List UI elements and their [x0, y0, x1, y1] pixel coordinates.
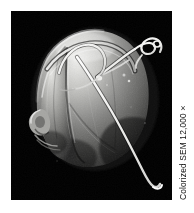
sem-micrograph-figure: Colorized SEM 12,000× [0, 0, 194, 213]
film-grain [11, 11, 172, 200]
magnification-caption: Colorized SEM 12,000× [172, 11, 194, 200]
sem-micrograph-image [11, 11, 172, 200]
sem-micrograph [11, 11, 172, 200]
magnification-caption-text: Colorized SEM 12,000× [179, 102, 187, 200]
